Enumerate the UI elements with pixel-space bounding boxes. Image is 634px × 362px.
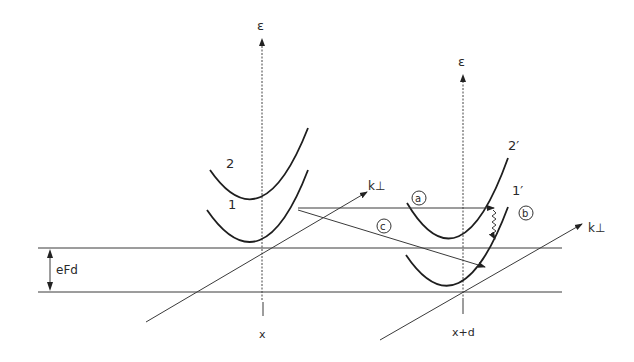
transition-b-wavy-arrow (492, 210, 496, 239)
left-momentum-axis-label: k⊥ (368, 179, 385, 193)
transition-b-label: b (522, 208, 528, 219)
right-momentum-axis-label: k⊥ (588, 221, 605, 235)
energy-offset-label: eFd (56, 263, 78, 277)
right-energy-axis-label: ε (458, 54, 465, 69)
left-band-1-label: 1 (228, 197, 236, 212)
transition-c-label: c (380, 221, 386, 232)
left-position-label: x (259, 328, 266, 341)
right-energy-axis-arrowhead (460, 74, 466, 82)
left-band-2 (210, 128, 308, 199)
right-band-2-label: 2′ (508, 138, 519, 153)
transition-c-arrow (298, 210, 485, 267)
right-position-label: x+d (452, 326, 475, 339)
left-band-2-label: 2 (226, 156, 234, 171)
left-momentum-axis (146, 192, 367, 322)
energy-offset-arrow (47, 249, 53, 291)
right-band-upper (407, 158, 508, 239)
left-energy-axis-arrowhead (259, 38, 265, 46)
left-band-1 (207, 170, 308, 242)
right-band-lower (406, 207, 508, 286)
band-diagram: eFd ε x k⊥ 2 1 ε x+d k⊥ 2′ 1′ a b c (0, 0, 634, 362)
right-momentum-axis (380, 224, 582, 340)
left-energy-axis-label: ε (257, 18, 264, 33)
transition-a-label: a (415, 193, 421, 204)
right-band-1-label: 1′ (512, 183, 523, 198)
